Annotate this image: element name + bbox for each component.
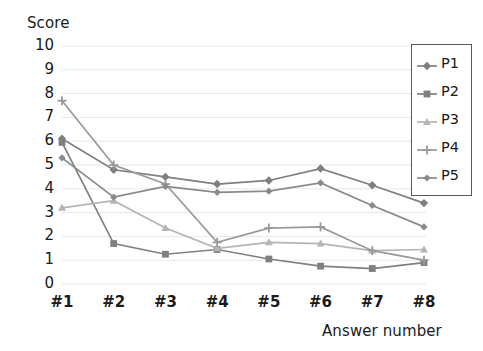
point-P2-a2 [110, 240, 117, 247]
legend-item-P1[interactable]: P1 [416, 52, 459, 74]
legend-marker-P2-icon [416, 85, 438, 97]
point-P3-a3 [161, 224, 169, 231]
legend-label-P1: P1 [441, 56, 459, 71]
legend-item-P4[interactable]: P4 [416, 136, 459, 158]
legend-item-P2[interactable]: P2 [416, 80, 459, 102]
point-P4-a7 [368, 246, 377, 255]
point-P1-a8 [420, 199, 428, 207]
point-P1-a6 [316, 164, 324, 172]
point-P5-a4 [214, 189, 221, 196]
point-P2-a6 [317, 263, 324, 270]
point-P5-a6 [317, 179, 324, 186]
legend-marker-P5-icon [416, 169, 438, 181]
point-P4-a6 [316, 222, 325, 231]
legend-marker-P3-icon [416, 113, 438, 125]
point-P1-a5 [265, 176, 273, 184]
legend-item-P5[interactable]: P5 [416, 164, 459, 186]
legend: P1P2P3P4P5 [411, 44, 472, 196]
point-P4-a5 [264, 224, 273, 233]
series-layer [58, 96, 429, 272]
legend-label-P3: P3 [441, 112, 459, 127]
point-P5-a7 [369, 202, 376, 209]
point-P1-a4 [213, 180, 221, 188]
point-P5-a8 [420, 223, 427, 230]
point-P2-a7 [369, 265, 376, 272]
legend-label-P5: P5 [441, 168, 459, 183]
legend-label-P4: P4 [441, 140, 459, 155]
point-P2-a3 [162, 251, 169, 258]
point-P2-a5 [265, 256, 272, 263]
legend-marker-P1-icon [416, 57, 438, 69]
legend-item-P3[interactable]: P3 [416, 108, 459, 130]
legend-marker-P4-icon [416, 141, 438, 153]
point-P2-a1 [59, 139, 66, 146]
legend-label-P2: P2 [441, 84, 459, 99]
series-P4 [58, 96, 429, 264]
point-P1-a7 [368, 181, 376, 189]
line-chart: Score Answer number 109876543210 #1#2#3#… [0, 0, 483, 351]
